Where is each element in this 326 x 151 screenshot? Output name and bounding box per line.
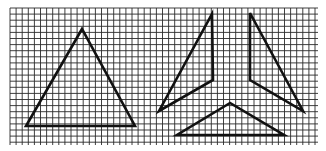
graph-paper-grid bbox=[10, 8, 318, 145]
grid-diagram bbox=[0, 0, 326, 151]
piece-upper-right bbox=[250, 13, 303, 111]
triangle-dissection-figure bbox=[0, 0, 326, 151]
triangle-shapes bbox=[26, 13, 303, 135]
